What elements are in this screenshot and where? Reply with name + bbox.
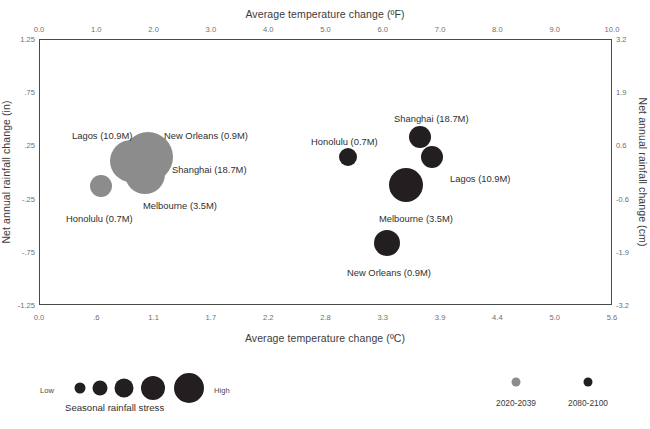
- color-legend-dot-2080-2100[interactable]: [584, 378, 593, 387]
- chart-root: Average temperature change (ºF) Average …: [0, 0, 650, 429]
- right-tick-label: 1.9: [616, 88, 627, 97]
- color-legend-label-2020-2039: 2020-2039: [496, 398, 536, 408]
- bubble-honolulu-2020-2039[interactable]: [90, 175, 112, 197]
- point-label-lagos-2020-2039: Lagos (10.9M): [72, 130, 132, 141]
- size-legend-bubble-1: [75, 383, 86, 394]
- left-tick-label: -.25: [14, 194, 35, 203]
- bottom-tick-label: 3.9: [435, 313, 446, 322]
- top-tick-label: 2.0: [148, 25, 159, 34]
- top-tick-label: 9.0: [549, 25, 560, 34]
- size-legend-bubble-3: [115, 379, 134, 398]
- top-tick-label: 5.0: [320, 25, 331, 34]
- bottom-tick-label: 1.7: [206, 313, 217, 322]
- size-legend-low-label: Low: [40, 386, 54, 395]
- bottom-tick-label: .6: [93, 313, 99, 322]
- bubble-melbourne-2080-2100[interactable]: [389, 168, 423, 202]
- bottom-tick-label: 3.3: [378, 313, 389, 322]
- bottom-tick-label: 0.0: [34, 313, 45, 322]
- point-label-melbourne-2020-2039: Melbourne (3.5M): [143, 200, 217, 211]
- top-axis-title: Average temperature change (ºF): [0, 8, 650, 20]
- bottom-tick-label: 4.4: [492, 313, 503, 322]
- top-tick-label: 7.0: [435, 25, 446, 34]
- bubble-honolulu-2080-2100[interactable]: [339, 148, 357, 166]
- bubble-melbourne-2020-2039[interactable]: [122, 152, 154, 184]
- right-tick-label: -1.9: [616, 247, 629, 256]
- top-tick-label: 6.0: [378, 25, 389, 34]
- color-legend-dot-2020-2039[interactable]: [512, 378, 521, 387]
- size-legend-bubble-2: [93, 381, 108, 396]
- right-tick-label: 3.2: [616, 35, 627, 44]
- bubble-new-orleans-2080-2100[interactable]: [374, 230, 400, 256]
- bubble-lagos-2080-2100[interactable]: [421, 146, 443, 168]
- right-axis-title: Net annual rainfall change (cm): [637, 97, 649, 246]
- color-legend-label-2080-2100: 2080-2100: [568, 398, 608, 408]
- bubble-shanghai-2080-2100[interactable]: [409, 126, 431, 148]
- top-tick-label: 1.0: [91, 25, 102, 34]
- left-tick-label: 1.25: [14, 35, 35, 44]
- left-tick-label: .75: [14, 88, 35, 97]
- right-tick-label: 0.6: [616, 141, 627, 150]
- color-legend: 2020-20392080-2100: [480, 372, 640, 416]
- top-tick-label: 4.0: [263, 25, 274, 34]
- top-tick-label: 0.0: [34, 25, 45, 34]
- bottom-tick-label: 1.1: [148, 313, 159, 322]
- bottom-tick-label: 2.2: [263, 313, 274, 322]
- top-tick-label: 3.0: [206, 25, 217, 34]
- left-tick-label: .25: [14, 141, 35, 150]
- point-label-lagos-2080-2100: Lagos (10.9M): [450, 173, 510, 184]
- size-legend-caption: Seasonal rainfall stress: [65, 402, 164, 413]
- point-label-honolulu-2020-2039: Honolulu (0.7M): [66, 213, 133, 224]
- bottom-axis-title: Average temperature change (ºC): [0, 332, 650, 344]
- point-label-honolulu-2080-2100: Honolulu (0.7M): [311, 136, 378, 147]
- point-label-shanghai-2020-2039: Shanghai (18.7M): [172, 164, 247, 175]
- size-legend-bubble-4: [141, 376, 165, 400]
- size-legend: Low High Seasonal rainfall stress: [40, 366, 270, 416]
- bottom-tick-label: 2.8: [320, 313, 331, 322]
- left-tick-label: -1.25: [14, 301, 35, 310]
- size-legend-high-label: High: [214, 386, 230, 395]
- bottom-tick-label: 5.0: [549, 313, 560, 322]
- bottom-tick-label: 5.6: [607, 313, 618, 322]
- point-label-new-orleans-2020-2039: New Orleans (0.9M): [164, 130, 248, 141]
- point-label-new-orleans-2080-2100: New Orleans (0.9M): [347, 267, 431, 278]
- point-label-shanghai-2080-2100: Shanghai (18.7M): [394, 113, 469, 124]
- point-label-melbourne-2080-2100: Melbourne (3.5M): [379, 213, 453, 224]
- right-tick-label: -3.2: [616, 301, 629, 310]
- top-tick-label: 10.0: [605, 25, 620, 34]
- left-tick-label: -.75: [14, 247, 35, 256]
- right-tick-label: -0.6: [616, 194, 629, 203]
- left-axis-title: Net annual rainfall change (in): [0, 100, 12, 243]
- top-tick-label: 8.0: [492, 25, 503, 34]
- size-legend-bubble-5: [174, 373, 204, 403]
